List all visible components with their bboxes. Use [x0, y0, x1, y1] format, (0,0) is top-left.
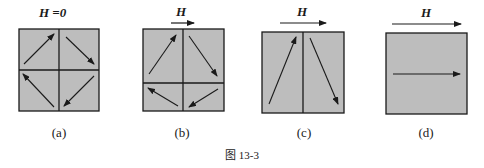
panel-d-domains: [386, 24, 467, 114]
panel-c-domains: [262, 23, 344, 113]
panel-label-a: (a): [29, 125, 89, 141]
figure-drawing: [0, 0, 484, 168]
panel-label-b: (b): [152, 125, 212, 141]
panel-b-domains: [143, 23, 224, 111]
field-label-b: H: [176, 4, 186, 20]
field-label-c: H: [297, 4, 307, 20]
figure-caption: 图 13-3: [0, 146, 484, 162]
field-label-a: H =0: [39, 5, 66, 21]
panel-label-d: (d): [396, 125, 456, 141]
panel-a-domains: [19, 29, 99, 111]
field-label-d: H: [421, 5, 431, 21]
panel-label-c: (c): [274, 125, 334, 141]
